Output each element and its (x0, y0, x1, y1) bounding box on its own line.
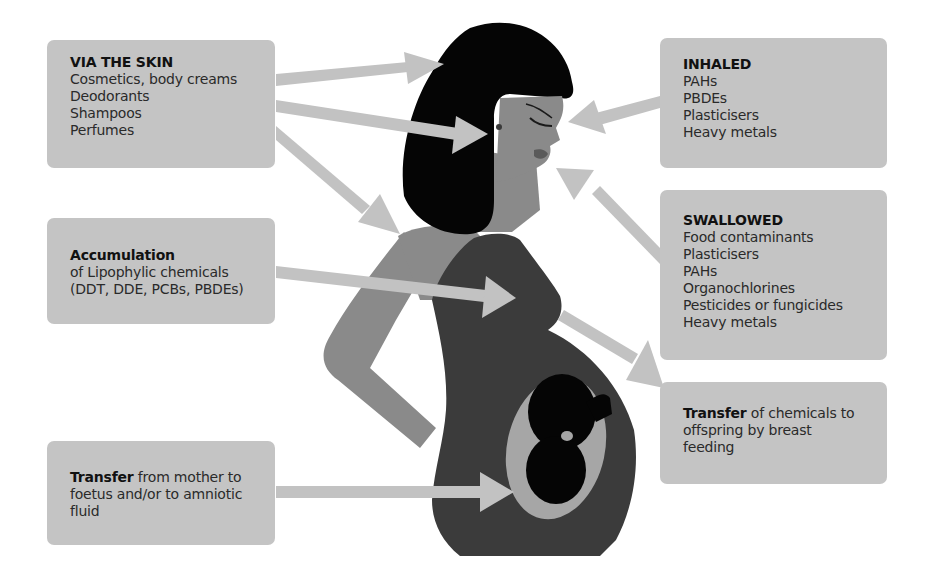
accumulation-title: Accumulation (70, 247, 275, 264)
accumulation-line: of Lipophylic chemicals (70, 264, 275, 281)
swallowed-item: Pesticides or fungicides (683, 297, 887, 314)
foetus-transfer-text: Transfer from mother to foetus and/or to… (70, 469, 260, 520)
swallowed-item: Food contaminants (683, 229, 887, 246)
skin-item: Cosmetics, body creams (70, 71, 275, 88)
exposure-diagram: VIA THE SKIN Cosmetics, body creams Deod… (0, 0, 931, 580)
arrow-inhaled-to-nose (568, 96, 660, 134)
skin-item: Perfumes (70, 122, 275, 139)
earring-icon (496, 124, 502, 130)
accumulation-box: Accumulation of Lipophylic chemicals (DD… (47, 218, 275, 324)
swallowed-item: Heavy metals (683, 314, 887, 331)
swallowed-item: PAHs (683, 263, 887, 280)
breast-feeding-box: Transfer of chemicals to offspring by br… (660, 382, 887, 484)
inhaled-box: INHALED PAHs PBDEs Plasticisers Heavy me… (660, 38, 887, 168)
inhaled-title: INHALED (683, 56, 887, 73)
inhaled-item: PBDEs (683, 90, 887, 107)
breast-feeding-text: Transfer of chemicals to offspring by br… (683, 405, 863, 456)
inhaled-item: PAHs (683, 73, 887, 90)
via-the-skin-title: VIA THE SKIN (70, 54, 275, 71)
swallowed-item: Organochlorines (683, 280, 887, 297)
swallowed-title: SWALLOWED (683, 212, 887, 229)
swallowed-item: Plasticisers (683, 246, 887, 263)
arrow-skin-to-head (276, 52, 444, 86)
swallowed-box: SWALLOWED Food contaminants Plasticisers… (660, 190, 887, 360)
face-shape (496, 96, 563, 182)
skin-item: Shampoos (70, 105, 275, 122)
foetus-transfer-bold: Transfer (70, 469, 134, 485)
foetus-transfer-box: Transfer from mother to foetus and/or to… (47, 441, 275, 545)
arrow-skin-to-shoulder (276, 126, 400, 234)
via-the-skin-box: VIA THE SKIN Cosmetics, body creams Deod… (47, 40, 275, 168)
inhaled-item: Heavy metals (683, 124, 887, 141)
inhaled-item: Plasticisers (683, 107, 887, 124)
accumulation-line: (DDT, DDE, PCBs, PBDEs) (70, 281, 275, 298)
arrow-swallowed-to-mouth (556, 168, 660, 264)
skin-item: Deodorants (70, 88, 275, 105)
breast-feeding-bold: Transfer (683, 405, 747, 421)
